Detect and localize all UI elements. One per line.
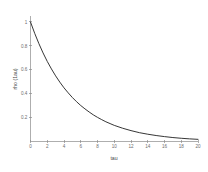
y-tick-label: 0.2 <box>21 115 28 120</box>
y-tick-label: 1 <box>25 20 28 25</box>
y-tick-label: 0.8 <box>21 44 28 49</box>
x-tick-label: 12 <box>128 144 134 149</box>
y-tick-label: 0.4 <box>21 91 28 96</box>
chart-figure: 0.20.40.60.81 02468101214161820 tau rho … <box>0 0 208 172</box>
x-tick-label: 14 <box>145 144 151 149</box>
x-axis-title: tau <box>110 155 117 161</box>
x-tick-label: 2 <box>46 144 49 149</box>
y-tick-label: 0.6 <box>21 67 28 72</box>
x-tick-label: 20 <box>195 144 201 149</box>
plot-svg: 0.20.40.60.81 02468101214161820 tau rho … <box>0 0 208 172</box>
x-tick-label: 16 <box>162 144 168 149</box>
x-tick-label: 8 <box>96 144 99 149</box>
x-tick-label: 10 <box>112 144 118 149</box>
x-tick-label: 6 <box>79 144 82 149</box>
x-tick-label: 18 <box>179 144 185 149</box>
y-axis-title: rho (1au) <box>12 68 18 89</box>
x-tick-label: 4 <box>63 144 66 149</box>
x-axis-ticks: 02468101214161820 <box>29 140 201 149</box>
data-curve-rho <box>31 22 199 139</box>
x-tick-label: 0 <box>29 144 32 149</box>
